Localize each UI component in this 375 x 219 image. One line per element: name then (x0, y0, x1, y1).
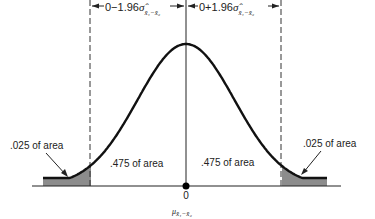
left-bound-label: 0−1.96σ̂x̄₁−x̄₂ (105, 1, 161, 17)
right-tail-pointer-arrow (301, 151, 321, 175)
right-tail-label: .025 of area (303, 138, 357, 149)
right-center-label: .475 of area (201, 157, 255, 168)
left-center-label: .475 of area (110, 158, 164, 169)
mean-point (183, 183, 190, 190)
center-zero-label: 0 (183, 190, 189, 201)
center-mu-label: μx̄₁−x̄₂ (171, 207, 192, 218)
normal-curve-diagram: 0−1.96σ̂x̄₁−x̄₂ 0+1.96σ̂x̄₁−x̄₂ .025 of … (0, 0, 375, 219)
right-bound-label: 0+1.96σ̂x̄₁−x̄₂ (199, 1, 255, 17)
left-tail-label: .025 of area (10, 140, 64, 151)
left-tail-pointer-arrow (46, 153, 68, 177)
normal-curve (43, 44, 327, 178)
